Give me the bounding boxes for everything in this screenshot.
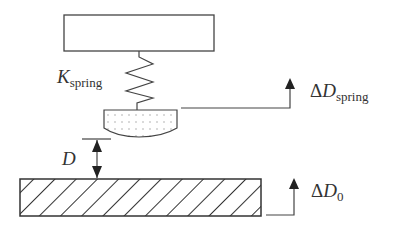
spring — [126, 51, 153, 110]
delta-zero-arrow-line — [266, 188, 294, 215]
tip — [104, 110, 177, 137]
gap-arrowhead-up-icon — [92, 140, 102, 152]
spring-constant-label: Kspring — [57, 66, 102, 91]
delta-zero-arrowhead-icon — [289, 178, 299, 189]
gap-arrowhead-down-icon — [92, 166, 102, 178]
delta-spring-arrow-line — [181, 88, 290, 108]
delta-zero-label: ΔD0 — [311, 180, 343, 205]
support-block — [64, 15, 214, 51]
delta-spring-arrowhead-icon — [285, 78, 295, 89]
gap-distance-label: D — [62, 148, 76, 170]
delta-spring-label: ΔDspring — [310, 80, 368, 105]
substrate — [20, 179, 261, 216]
